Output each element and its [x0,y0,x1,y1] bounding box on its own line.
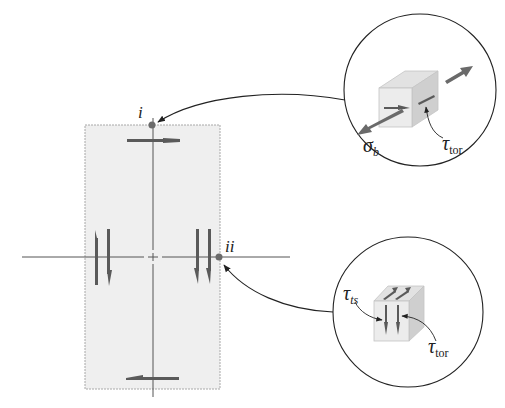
sigma-b-label: σb [363,135,379,155]
tau-tor-label-bottom: τtor [428,336,449,356]
tau-subscript: tor [449,143,462,157]
leader-to-point-ii [224,265,333,312]
tau-ts-label: τts [343,283,358,303]
tau-tor-label-top: τtor [442,133,463,153]
point-ii-label: ii [225,238,234,255]
leader-to-point-i [158,94,345,122]
point-ii-marker [216,254,223,261]
sigma-symbol: σ [363,134,373,156]
tau-ts-subscript: ts [350,293,358,307]
point-i-label: i [138,104,143,121]
bottom-callout [333,237,483,387]
point-i-marker [149,122,156,129]
tau-tor-subscript: tor [435,346,448,360]
sigma-subscript: b [373,145,379,159]
